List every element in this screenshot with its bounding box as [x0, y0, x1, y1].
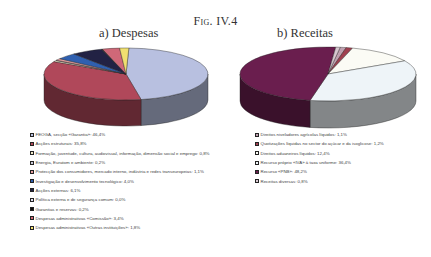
legend-item: Garantias e reservas: 0,2%: [30, 204, 210, 213]
legend-item: Direitos aduaneiros líquidos: 12,4%: [255, 149, 384, 158]
legend-item: Direitos niveladores agrícolas líquidos:…: [255, 130, 384, 139]
legend-label: Energia, Euratom e ambiente: 0,2%: [36, 160, 106, 165]
legend-label: Direitos niveladores agrícolas líquidos:…: [261, 132, 347, 137]
legend-marker-icon: [255, 179, 259, 183]
legend-marker-icon: [30, 198, 34, 202]
legend-label: FEOGA, secção «Garantia»: 46,4%: [36, 132, 106, 137]
legend-item: Quotizações líquidas no sector do açúcar…: [255, 139, 384, 148]
legend-marker-icon: [30, 170, 34, 174]
legend-marker-icon: [30, 207, 34, 211]
legend-marker-icon: [30, 179, 34, 183]
legend-marker-icon: [30, 161, 34, 165]
legend-label: Formação, juventude, cultura, audiovisua…: [36, 151, 210, 156]
legend-item: Acções estruturais: 35,8%: [30, 139, 210, 148]
legend-label: Política externa e de segurança comum: 0…: [36, 197, 126, 202]
pie-chart-despesas: [38, 44, 218, 134]
chart-b-title: b) Receitas: [277, 26, 333, 41]
legend-despesas: FEOGA, secção «Garantia»: 46,4%Acções es…: [30, 130, 210, 232]
legend-label: Receitas diversas: 0,8%: [261, 179, 308, 184]
legend-marker-icon: [30, 142, 34, 146]
legend-item: Formação, juventude, cultura, audiovisua…: [30, 149, 210, 158]
legend-label: Quotizações líquidas no sector do açúcar…: [261, 141, 384, 146]
legend-marker-icon: [255, 142, 259, 146]
legend-marker-icon: [30, 216, 34, 220]
legend-item: Recurso próprio «IVA» à taxa uniforme: 3…: [255, 158, 384, 167]
pie-chart-receitas: [232, 44, 422, 134]
legend-item: Recurso «PNB»: 48,2%: [255, 167, 384, 176]
legend-label: Garantias e reservas: 0,2%: [36, 207, 89, 212]
legend-marker-icon: [30, 151, 34, 155]
legend-label: Recurso «PNB»: 48,2%: [261, 169, 307, 174]
legend-label: Recurso próprio «IVA» à taxa uniforme: 3…: [261, 160, 351, 165]
legend-label: Investigação e desenvolvimento tecnológi…: [36, 179, 134, 184]
legend-item: Despesas administrativas «Outras institu…: [30, 223, 210, 232]
legend-marker-icon: [255, 161, 259, 165]
legend-item: Protecção dos consumidores, mercado inte…: [30, 167, 210, 176]
legend-label: Direitos aduaneiros líquidos: 12,4%: [261, 151, 330, 156]
legend-label: Despesas administrativas «Comissão»: 3,4…: [36, 216, 124, 221]
legend-marker-icon: [30, 188, 34, 192]
legend-label: Protecção dos consumidores, mercado inte…: [36, 169, 204, 174]
legend-item: Receitas diversas: 0,8%: [255, 176, 384, 185]
legend-label: Despesas administrativas «Outras institu…: [36, 225, 141, 230]
legend-item: FEOGA, secção «Garantia»: 46,4%: [30, 130, 210, 139]
legend-marker-icon: [255, 170, 259, 174]
legend-label: Acções externas: 6,1%: [36, 188, 81, 193]
legend-item: Investigação e desenvolvimento tecnológi…: [30, 176, 210, 185]
legend-item: Acções externas: 6,1%: [30, 186, 210, 195]
legend-item: Política externa e de segurança comum: 0…: [30, 195, 210, 204]
legend-label: Acções estruturais: 35,8%: [36, 141, 87, 146]
figure-title: Fig. IV.4: [0, 14, 431, 29]
legend-marker-icon: [255, 151, 259, 155]
legend-item: Energia, Euratom e ambiente: 0,2%: [30, 158, 210, 167]
legend-marker-icon: [255, 133, 259, 137]
chart-a-title: a) Despesas: [99, 26, 158, 41]
legend-receitas: Direitos niveladores agrícolas líquidos:…: [255, 130, 384, 186]
legend-item: Despesas administrativas «Comissão»: 3,4…: [30, 214, 210, 223]
legend-marker-icon: [30, 226, 34, 230]
legend-marker-icon: [30, 133, 34, 137]
